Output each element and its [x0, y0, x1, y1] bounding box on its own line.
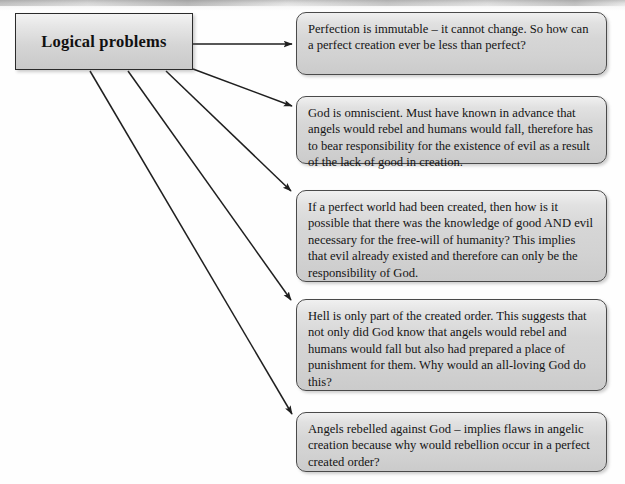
statement-box-perfect-world-knowledge[interactable]: If a perfect world had been created, the…: [296, 190, 607, 282]
statement-text: Angels rebelled against God – implies fl…: [308, 421, 595, 470]
statement-text: God is omniscient. Must have known in ad…: [308, 105, 595, 171]
statement-box-angels-rebelled[interactable]: Angels rebelled against God – implies fl…: [296, 412, 607, 472]
statement-text: Perfection is immutable – it cannot chan…: [308, 21, 595, 54]
connector-to-perfect-world-knowledge: [166, 71, 291, 191]
statement-box-god-omniscient[interactable]: God is omniscient. Must have known in ad…: [296, 96, 607, 164]
source-node-label: Logical problems: [41, 32, 166, 52]
statement-box-perfection-immutable[interactable]: Perfection is immutable – it cannot chan…: [296, 12, 607, 75]
statement-box-hell-created-order[interactable]: Hell is only part of the created order. …: [296, 299, 607, 391]
connector-to-angels-rebelled: [90, 71, 292, 414]
diagram-canvas: Logical problems Perfection is immutable…: [0, 0, 625, 484]
source-node-logical-problems[interactable]: Logical problems: [15, 13, 193, 70]
statement-text: If a perfect world had been created, the…: [308, 199, 595, 281]
connector-to-god-omniscient: [193, 69, 292, 106]
connector-to-hell-created-order: [128, 71, 291, 300]
statement-text: Hell is only part of the created order. …: [308, 308, 595, 390]
